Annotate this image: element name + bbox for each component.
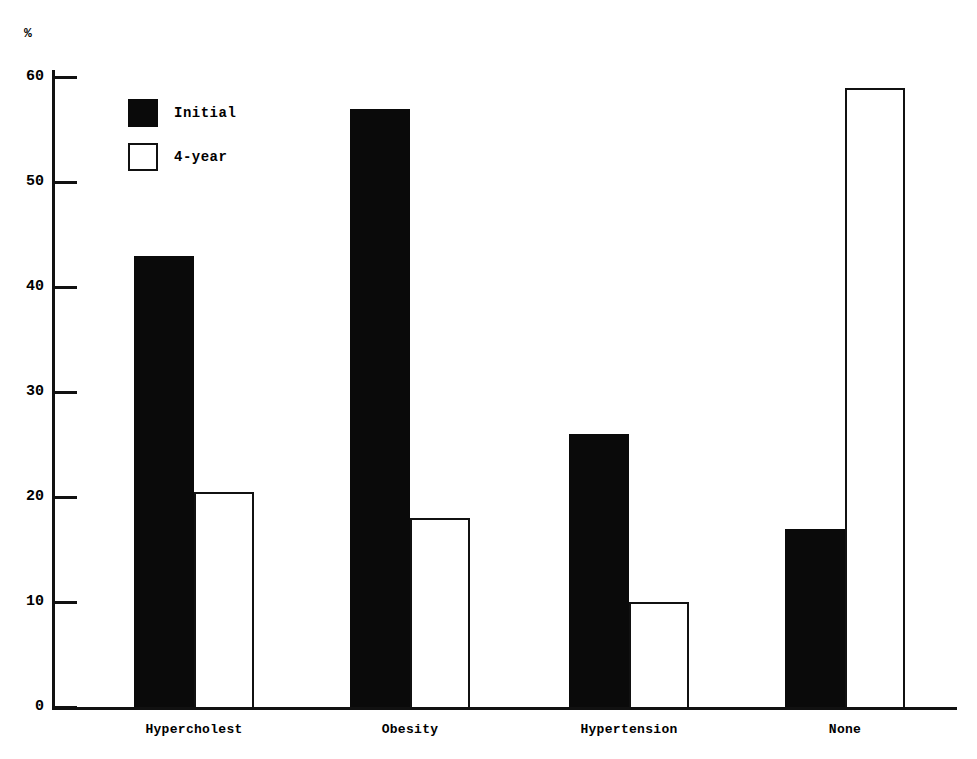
legend-label: Initial xyxy=(174,105,236,121)
x-axis-label-hypercholest: Hypercholest xyxy=(94,722,294,737)
x-axis-label-obesity: Obesity xyxy=(310,722,510,737)
legend-item-initial: Initial xyxy=(128,96,236,130)
bar-none-4-year xyxy=(845,88,905,708)
legend-swatch-hollow xyxy=(128,143,158,171)
bar-hypercholest-4-year xyxy=(194,492,254,707)
x-axis-label-hypertension: Hypertension xyxy=(529,722,729,737)
x-axis-label-none: None xyxy=(745,722,945,737)
legend-swatch-filled xyxy=(128,99,158,127)
bar-chart-figure: % 0102030405060 HypercholestObesityHyper… xyxy=(0,0,977,759)
bar-hypercholest-initial xyxy=(134,256,194,708)
bar-hypertension-4-year xyxy=(629,602,689,707)
chart-legend: Initial4-year xyxy=(128,96,236,184)
bar-hypertension-initial xyxy=(569,434,629,707)
bar-obesity-initial xyxy=(350,109,410,708)
legend-label: 4-year xyxy=(174,149,227,165)
legend-item-4-year: 4-year xyxy=(128,140,236,174)
bar-obesity-4-year xyxy=(410,518,470,707)
bar-none-initial xyxy=(785,529,845,708)
